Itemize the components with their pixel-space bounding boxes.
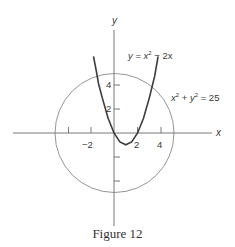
figure-caption: Figure 12 [0, 226, 235, 242]
parabola-curve [96, 57, 138, 143]
figure-plot: y x −2 2 4 2 4 y = x2 − 2x x2 + y2 = 25 [0, 0, 235, 247]
parabola-equation-label: y = x2 − 2x [127, 50, 173, 61]
x-ticks [69, 127, 162, 133]
x-axis-label: x [215, 127, 222, 138]
parabola-line [94, 56, 159, 145]
y-tick-label-4: 4 [106, 79, 111, 90]
x-tick-label-2: 2 [134, 139, 139, 150]
y-axis-label: y [111, 15, 118, 26]
x-tick-label-4: 4 [157, 139, 162, 150]
circle-equation-label: x2 + y2 = 25 [170, 92, 219, 103]
y-tick-label-2: 2 [106, 103, 111, 114]
x-tick-label-neg2: −2 [82, 139, 93, 150]
